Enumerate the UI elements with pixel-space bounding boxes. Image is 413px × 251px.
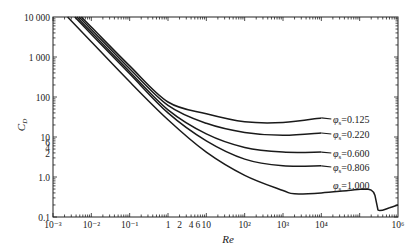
x-tick-label: 6 <box>195 220 200 230</box>
y-tick-labels: 10 0001 000100106421.00.1 <box>24 13 50 223</box>
plot-area: 10⁻³10⁻²10⁻¹12461010²10³10⁴10⁶ 10 0001 0… <box>0 0 413 251</box>
y-axis-label: CD <box>15 119 29 131</box>
curve-label-leaders <box>321 118 331 167</box>
x-tick-label: 4 <box>189 220 194 230</box>
x-tick-label: 10⁴ <box>315 220 329 230</box>
curve-label: φs=0.806 <box>333 162 369 175</box>
x-tick-label: 10⁻² <box>83 220 101 230</box>
curve-label: φs=0.125 <box>333 114 369 127</box>
y-tick-label: 10 000 <box>24 13 50 23</box>
curve-label: φs=0.220 <box>333 129 369 142</box>
x-tick-label: 10⁶ <box>392 220 405 230</box>
y-axis-label-sub: D <box>21 119 29 125</box>
curve-phi-0.220 <box>79 17 321 135</box>
curve-labels: φs=0.125φs=0.220φs=0.600φs=0.806φs=1.000 <box>333 114 369 193</box>
x-tick-label: 10³ <box>277 220 290 230</box>
x-tick-label: 10⁻¹ <box>121 220 139 230</box>
curve-label: φs=0.600 <box>333 148 369 161</box>
y-tick-label: 2 <box>45 149 50 159</box>
svg-text:CD: CD <box>15 119 29 131</box>
curve-phi-0.600 <box>77 17 321 152</box>
drag-coefficient-chart: 10⁻³10⁻²10⁻¹12461010²10³10⁴10⁶ 10 0001 0… <box>0 0 413 251</box>
y-tick-label: 100 <box>36 93 51 103</box>
x-tick-label: 2 <box>177 220 182 230</box>
x-tick-label: 10² <box>238 220 251 230</box>
y-tick-label: 1 000 <box>29 53 51 63</box>
x-tick-label: 1 <box>166 220 171 230</box>
curve-phi-0.806 <box>75 17 321 166</box>
x-tick-label: 10 <box>202 220 212 230</box>
y-tick-label: 0.1 <box>38 213 50 223</box>
y-tick-label: 1.0 <box>38 173 50 183</box>
x-axis-label: Re <box>221 233 234 245</box>
x-tick-labels: 10⁻³10⁻²10⁻¹12461010²10³10⁴10⁶ <box>44 220 404 230</box>
